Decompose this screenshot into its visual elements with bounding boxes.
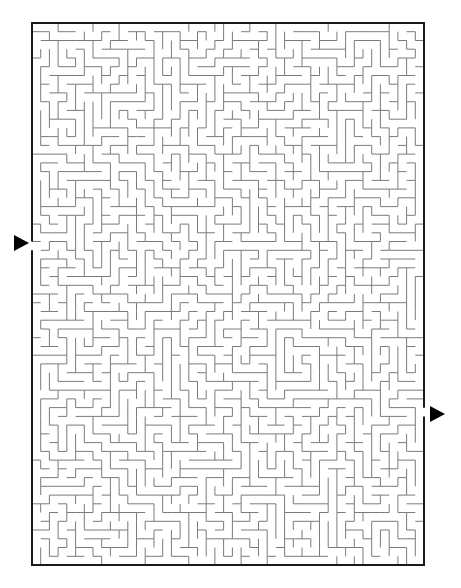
exit-arrow-icon <box>430 406 445 422</box>
entrance-arrow-icon <box>14 235 29 251</box>
maze-grid[interactable] <box>0 0 461 588</box>
maze-walls <box>32 23 424 565</box>
maze-puzzle <box>0 0 461 588</box>
